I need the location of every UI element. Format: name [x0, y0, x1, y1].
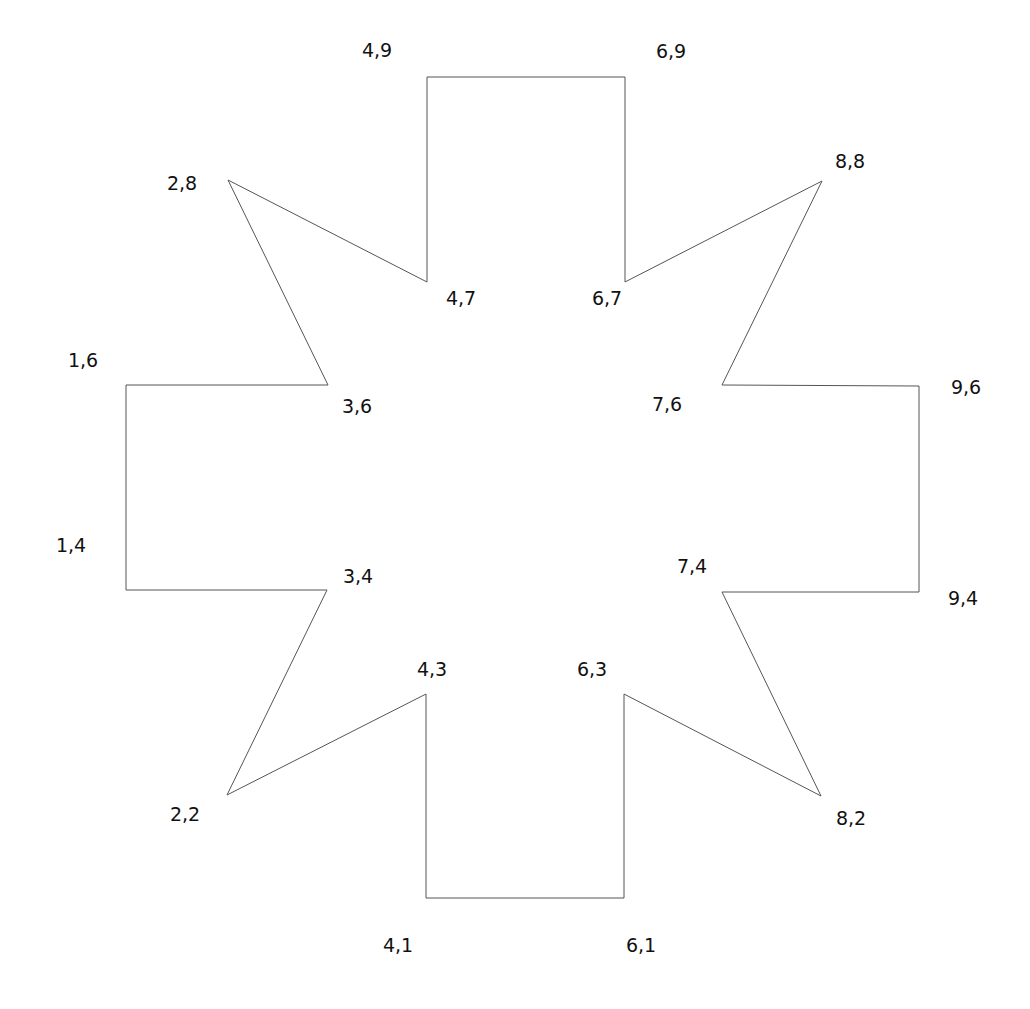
vertex-label-3-6: 3,6 [342, 397, 372, 416]
vertex-label-9-6: 9,6 [951, 378, 981, 397]
vertex-label-6-7: 6,7 [592, 289, 622, 308]
vertex-label-4-9: 4,9 [362, 41, 392, 60]
vertex-label-8-8: 8,8 [835, 152, 865, 171]
vertex-label-9-4: 9,4 [948, 589, 978, 608]
vertex-label-1-6: 1,6 [68, 351, 98, 370]
vertex-label-7-6: 7,6 [652, 395, 682, 414]
vertex-label-4-7: 4,7 [446, 289, 476, 308]
vertex-label-2-2: 2,2 [170, 805, 200, 824]
vertex-label-8-2: 8,2 [836, 809, 866, 828]
star-polygon-diagram [0, 0, 1030, 1009]
vertex-label-4-1: 4,1 [383, 936, 413, 955]
vertex-label-2-8: 2,8 [167, 174, 197, 193]
vertex-label-1-4: 1,4 [56, 536, 86, 555]
vertex-label-6-3: 6,3 [577, 660, 607, 679]
twelve-point-cross-star-outline [126, 77, 919, 898]
vertex-label-4-3: 4,3 [417, 660, 447, 679]
vertex-label-6-1: 6,1 [626, 936, 656, 955]
vertex-label-3-4: 3,4 [343, 567, 373, 586]
vertex-label-7-4: 7,4 [677, 557, 707, 576]
vertex-label-6-9: 6,9 [656, 42, 686, 61]
